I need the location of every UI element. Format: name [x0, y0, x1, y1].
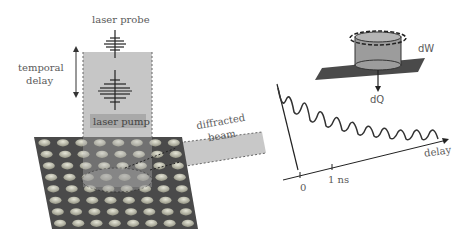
nanodisk: [164, 220, 176, 227]
nanodisk: [54, 220, 66, 227]
nanodisk: [170, 151, 182, 158]
nanodisk: [178, 197, 190, 204]
oscillating-signal: [278, 88, 438, 140]
dw-label: dW: [418, 43, 434, 54]
nanodisk: [61, 162, 73, 169]
nanodisk: [141, 197, 153, 204]
nanodisk: [38, 139, 50, 146]
temporal-delay-label-2: delay: [26, 75, 53, 86]
nanodisk: [143, 208, 155, 215]
nanodisk: [105, 197, 117, 204]
nanodisk: [41, 151, 53, 158]
nanodisk: [59, 151, 71, 158]
nanodisk: [174, 174, 186, 181]
nanodisk: [151, 151, 163, 158]
nanodisk: [52, 208, 64, 215]
nanodisk: [64, 174, 76, 181]
nanodisk: [180, 208, 192, 215]
dq-label: dQ: [370, 94, 384, 105]
signal-plot: [277, 84, 449, 180]
nanodisk: [158, 185, 170, 192]
nanodisk: [86, 197, 98, 204]
nanodisk: [176, 185, 188, 192]
temporal-delay-label-1: temporal: [18, 62, 64, 73]
nanodisk: [109, 220, 121, 227]
nanodisk: [155, 174, 167, 181]
tick-0-label: 0: [300, 182, 306, 193]
nanodisk: [70, 208, 82, 215]
nanodisk: [123, 197, 135, 204]
nanodisk: [160, 197, 172, 204]
nanodisk: [145, 220, 157, 227]
nanodisk: [68, 197, 80, 204]
nanostructured-sample: [34, 137, 198, 229]
nanodisk: [107, 208, 119, 215]
temporal-delay-arrow: [73, 46, 79, 98]
laser-probe-label: laser probe: [92, 14, 150, 25]
nanodisk: [45, 174, 57, 181]
nanodisk: [57, 139, 69, 146]
nanodisk: [66, 185, 78, 192]
nanodisk-inset: [315, 31, 425, 92]
nanodisk: [168, 139, 180, 146]
nanodisk: [182, 220, 194, 227]
tick-1ns-label: 1 ns: [328, 174, 349, 185]
nanodisk: [88, 208, 100, 215]
nanodisk: [47, 185, 59, 192]
nanodisk: [43, 162, 55, 169]
nanodisk: [162, 208, 174, 215]
pump-beam: [83, 52, 152, 142]
nanodisk: [50, 197, 62, 204]
nanodisk: [125, 208, 137, 215]
nanodisk: [127, 220, 139, 227]
nanodisk: [72, 220, 84, 227]
nanodisk: [91, 220, 103, 227]
laser-pump-label: laser pump: [93, 116, 150, 127]
